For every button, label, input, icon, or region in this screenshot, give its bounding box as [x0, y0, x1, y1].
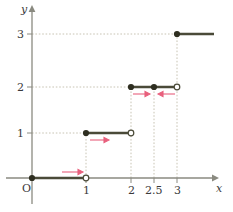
- x-tick-label-1: 1: [83, 184, 90, 197]
- axes: [6, 12, 212, 204]
- closed-point-0-0: [29, 175, 35, 181]
- limit-arrow-y0-right: [62, 169, 83, 174]
- closed-point-2_5-2: [151, 84, 157, 90]
- step-function-segments: [32, 34, 214, 178]
- y-tick-label-1: 1: [17, 127, 24, 140]
- open-point-2-1: [128, 130, 134, 136]
- step-function-figure: y x O 1 2 2.5 3 1 2 3: [0, 0, 233, 212]
- grid-lines: [32, 34, 214, 178]
- x-axis-ticks: [86, 178, 177, 183]
- y-axis-arrowhead: [29, 5, 36, 12]
- closed-point-3-3: [174, 31, 180, 37]
- y-axis-label: y: [21, 3, 27, 16]
- y-axis-ticks: [27, 34, 32, 133]
- x-axis-arrowhead: [212, 175, 219, 182]
- endpoint-markers: [29, 31, 180, 181]
- open-point-1-0: [83, 175, 89, 181]
- graph-canvas: [0, 0, 233, 212]
- closed-point-2-2: [128, 84, 134, 90]
- y-tick-label-2: 2: [17, 81, 24, 94]
- limit-arrow-y2-left: [158, 91, 175, 96]
- x-tick-label-2-5: 2.5: [145, 184, 163, 197]
- origin-label: O: [22, 182, 31, 195]
- limit-arrow-y1-right: [90, 137, 109, 142]
- x-tick-label-3: 3: [174, 184, 181, 197]
- y-tick-label-3: 3: [17, 28, 24, 41]
- x-axis-label: x: [216, 182, 222, 195]
- open-point-3-2: [174, 84, 180, 90]
- x-tick-label-2: 2: [128, 184, 135, 197]
- limit-arrow-y2-right: [133, 91, 150, 96]
- closed-point-1-1: [83, 130, 89, 136]
